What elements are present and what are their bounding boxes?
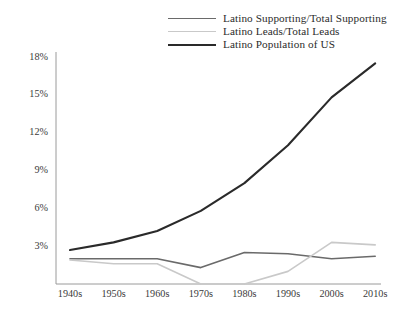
x-tick-label: 2000s — [310, 288, 354, 299]
x-tick-label: 2010s — [353, 288, 393, 299]
y-tick-label: 3% — [16, 240, 48, 251]
x-tick-label: 1980s — [222, 288, 266, 299]
x-tick-label: 1970s — [179, 288, 223, 299]
y-tick-label: 9% — [16, 164, 48, 175]
y-tick-label: 15% — [16, 88, 48, 99]
y-tick-label: 6% — [16, 202, 48, 213]
series-line-0 — [70, 252, 375, 267]
y-tick-label: 12% — [16, 126, 48, 137]
series-lines — [70, 63, 375, 284]
y-tick-label: 18% — [16, 51, 48, 62]
series-line-1 — [70, 242, 375, 284]
chart-container: Latino Supporting/Total Supporting Latin… — [0, 0, 393, 316]
x-tick-label: 1940s — [48, 288, 92, 299]
series-line-2 — [70, 63, 375, 250]
x-tick-label: 1950s — [92, 288, 136, 299]
axis-lines — [56, 52, 381, 284]
plot-area — [0, 0, 393, 316]
x-tick-label: 1960s — [135, 288, 179, 299]
x-tick-label: 1990s — [266, 288, 310, 299]
